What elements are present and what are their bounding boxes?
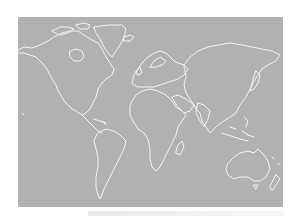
map-caption	[88, 211, 284, 216]
japan-outline	[250, 71, 260, 91]
world-map-outline	[18, 17, 283, 207]
south-america-outline	[94, 129, 126, 199]
madagascar-outline	[176, 141, 184, 155]
greenland-outline	[94, 25, 126, 57]
arabia-outline	[172, 95, 194, 113]
asia-outline	[184, 43, 280, 133]
hudson-bay-outline	[70, 49, 84, 61]
tasmania-outline	[254, 185, 258, 189]
iceland-outline	[124, 35, 134, 41]
southeast-asia-islands-outline	[222, 117, 254, 141]
north-america-outline	[18, 31, 114, 115]
australia-outline	[226, 149, 270, 181]
world-map	[18, 17, 283, 207]
africa-outline	[130, 89, 186, 171]
arctic-islands-outline	[52, 23, 90, 35]
new-zealand-outline	[270, 175, 280, 191]
